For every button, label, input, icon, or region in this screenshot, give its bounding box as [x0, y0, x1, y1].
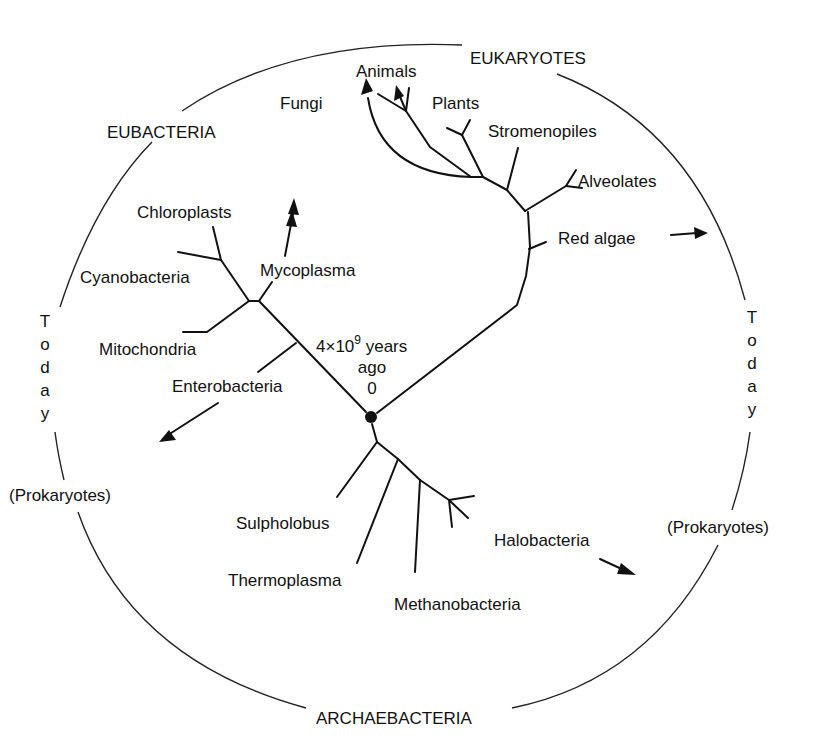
today-label-left: T o d a y — [40, 312, 50, 423]
origin-prefix: 4×10 — [316, 337, 354, 356]
domain-label-archaebacteria: ARCHAEBACTERIA — [316, 709, 473, 728]
svg-text:y: y — [748, 400, 757, 419]
halobacteria-fork — [449, 496, 474, 527]
enterobacteria-arrow-shaft — [168, 403, 218, 435]
svg-text:y: y — [41, 404, 50, 423]
domain-label-eukaryotes: EUKARYOTES — [470, 49, 586, 68]
label-enterobacteria: Enterobacteria — [172, 377, 283, 396]
methanobacteria-branch — [415, 480, 420, 572]
svg-text:T: T — [40, 312, 50, 331]
eukaryote-trunk — [377, 212, 530, 413]
halobacteria-arrow-icon — [617, 563, 636, 575]
label-thermoplasma: Thermoplasma — [228, 571, 342, 590]
svg-text:d: d — [40, 358, 49, 377]
chloroplasts-branch — [213, 227, 221, 260]
origin-label: 4×109 years ago 0 — [316, 333, 407, 398]
label-sulpholobus: Sulpholobus — [236, 514, 330, 533]
cyanobacteria-branch — [178, 252, 221, 260]
today-label-right: T o d a y — [747, 308, 757, 419]
label-mycoplasma: Mycoplasma — [260, 261, 356, 280]
alveolates-branch — [525, 186, 566, 211]
red-algae-arrow-icon — [694, 227, 708, 239]
svg-text:a: a — [747, 377, 757, 396]
prokaryotes-label-left: (Prokaryotes) — [9, 486, 111, 505]
label-cyanobacteria: Cyanobacteria — [80, 268, 190, 287]
red-algae-branch — [529, 242, 546, 249]
label-chloroplasts: Chloroplasts — [137, 203, 232, 222]
origin-suffix: years — [361, 337, 407, 356]
prokaryotes-label-right: (Prokaryotes) — [667, 518, 769, 537]
svg-text:T: T — [747, 308, 757, 327]
stromenopiles-branch — [507, 148, 518, 190]
thermoplasma-branch — [357, 459, 398, 563]
red-algae-arrow-shaft — [671, 233, 697, 235]
label-alveolates: Alveolates — [578, 172, 656, 191]
eukaryote-stem-upper-2 — [483, 177, 507, 190]
plants-branch — [462, 135, 483, 177]
mycoplasma-arrow-icon-upper — [288, 198, 299, 215]
enterobacteria-branch — [258, 343, 296, 372]
label-plants: Plants — [432, 94, 479, 113]
animals-branch — [406, 111, 471, 177]
label-red-algae: Red algae — [558, 229, 636, 248]
circle-arc-right-mid — [732, 432, 750, 510]
label-mitochondria: Mitochondria — [99, 340, 197, 359]
domain-label-eubacteria: EUBACTERIA — [107, 123, 216, 142]
label-animals: Animals — [356, 62, 416, 81]
archaebacteria-trunk — [372, 424, 449, 500]
circle-arc-lower-right — [512, 545, 718, 708]
svg-text:4×109 years: 4×109 years — [316, 333, 407, 356]
mycoplasma-branch — [259, 282, 272, 301]
sulpholobus-branch — [337, 442, 377, 497]
origin-ago: ago — [358, 358, 386, 377]
eukaryote-stem-upper — [507, 190, 525, 211]
mitochondria-branch — [183, 301, 249, 332]
label-halobacteria: Halobacteria — [494, 531, 590, 550]
label-fungi: Fungi — [280, 94, 323, 113]
origin-zero: 0 — [367, 379, 376, 398]
cyano-chloro-stem — [221, 260, 249, 301]
svg-text:o: o — [40, 335, 49, 354]
root-node — [365, 411, 377, 423]
circle-arc-lower-left — [78, 512, 306, 708]
svg-text:o: o — [747, 331, 756, 350]
phylogenetic-tree-diagram: EUKARYOTES EUBACTERIA ARCHAEBACTERIA T o… — [0, 0, 815, 746]
svg-text:d: d — [747, 354, 756, 373]
circle-arc-left-mid — [55, 432, 64, 480]
eubacteria-branch — [168, 208, 366, 435]
animals-arrow-icon — [394, 85, 404, 101]
svg-text:a: a — [40, 381, 50, 400]
label-methanobacteria: Methanobacteria — [394, 595, 521, 614]
label-stromenopiles: Stromenopiles — [488, 122, 597, 141]
plants-fork — [447, 120, 470, 135]
